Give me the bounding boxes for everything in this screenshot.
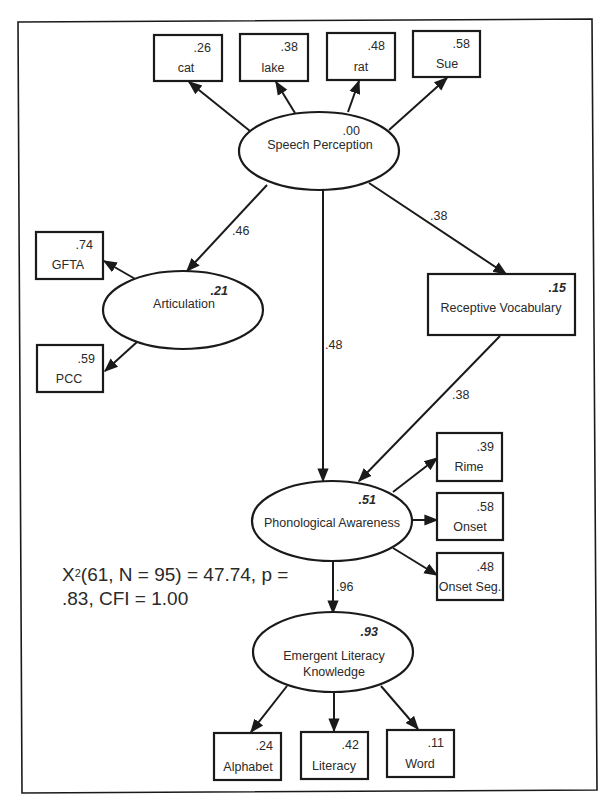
label-onset: Onset <box>453 520 487 534</box>
box-alphabet: .24 Alphabet <box>214 733 281 780</box>
label-articulation: Articulation <box>153 297 215 311</box>
label-emergent-literacy-line2: Knowledge <box>303 665 365 679</box>
fit-statistics: X2(61, N = 95) = 47.74, p = .83, CFI = 1… <box>62 563 292 611</box>
loading-lake: .38 <box>281 40 298 54</box>
label-pcc: PCC <box>56 372 82 386</box>
path-pa-onsetseg <box>393 548 437 575</box>
path-sp-articulation <box>187 185 267 271</box>
coef-vocabulary-phonological: .38 <box>452 388 469 402</box>
r2-speech-perception: .00 <box>343 124 360 138</box>
loading-sue: .58 <box>453 37 470 51</box>
path-sp-rat <box>348 81 359 112</box>
latent-phonological-awareness: .51 Phonological Awareness <box>252 481 412 561</box>
latent-emergent-literacy: .93 Emergent Literacy Knowledge <box>253 612 413 692</box>
latent-speech-perception: .00 Speech Perception <box>239 112 399 190</box>
loading-cat: .26 <box>194 41 211 55</box>
loading-gfta: .74 <box>76 238 93 252</box>
label-speech-perception: Speech Perception <box>267 138 373 152</box>
coef-sp-articulation: .46 <box>232 224 249 238</box>
box-lake: .38 lake <box>240 34 308 81</box>
box-rat: .48 rat <box>327 33 395 80</box>
box-sue: .58 Sue <box>413 31 480 77</box>
loading-word: .11 <box>428 736 444 750</box>
r2-articulation: .21 <box>211 284 228 298</box>
label-literacy: Literacy <box>312 759 357 773</box>
box-onset: .58 Onset <box>437 493 503 540</box>
label-receptive-vocabulary: Receptive Vocabulary <box>441 301 563 315</box>
fit-line-1: X2(61, N = 95) = 47.74, p = <box>62 563 292 587</box>
path-art-gfta <box>104 261 137 280</box>
label-emergent-literacy-line1: Emergent Literacy <box>283 649 385 663</box>
fit-line-2: .83, CFI = 1.00 <box>62 587 292 611</box>
coef-sp-vocabulary: .38 <box>430 209 447 223</box>
path-el-alphabet <box>251 686 287 732</box>
box-rime: .39 Rime <box>437 433 502 481</box>
loading-alphabet: .24 <box>256 739 273 753</box>
box-word: .11 Word <box>387 730 454 777</box>
loading-onset: .58 <box>477 500 494 514</box>
path-sp-vocabulary <box>369 183 506 274</box>
coef-phonological-literacy: .96 <box>336 580 353 594</box>
box-gfta: .74 GFTA <box>36 232 103 279</box>
r2-emergent-literacy: .93 <box>361 625 378 639</box>
box-pcc: .59 PCC <box>37 345 103 392</box>
label-gfta: GFTA <box>52 258 85 272</box>
label-rat: rat <box>354 60 369 74</box>
loading-pcc: .59 <box>78 352 95 366</box>
label-alphabet: Alphabet <box>223 760 273 774</box>
loading-literacy: .42 <box>342 738 359 752</box>
r2-receptive-vocabulary: .15 <box>549 281 567 295</box>
path-el-word <box>381 686 418 729</box>
coef-sp-phonological: .48 <box>325 338 342 352</box>
label-word: Word <box>405 757 435 771</box>
path-art-pcc <box>105 342 137 371</box>
label-onset-seg: Onset Seg. <box>439 580 502 594</box>
path-sp-sue <box>389 78 447 130</box>
r2-phonological-awareness: .51 <box>359 493 376 507</box>
box-cat: .26 cat <box>154 35 222 81</box>
label-cat: cat <box>178 61 195 75</box>
path-sp-lake <box>276 82 295 113</box>
loading-onset-seg: .48 <box>477 560 494 574</box>
latent-articulation: .21 Articulation <box>103 271 263 349</box>
label-phonological-awareness: Phonological Awareness <box>264 516 400 530</box>
box-receptive-vocabulary: .15 Receptive Vocabulary <box>428 274 575 335</box>
label-rime: Rime <box>454 460 483 474</box>
label-lake: lake <box>262 61 285 75</box>
loading-rat: .48 <box>368 39 385 53</box>
sem-diagram: .46 .48 .38 .38 .96 .26 cat .38 lake .48… <box>0 0 613 806</box>
box-onset-seg: .48 Onset Seg. <box>437 553 503 600</box>
path-pa-rime <box>393 458 437 492</box>
loading-rime: .39 <box>477 440 494 454</box>
box-literacy: .42 Literacy <box>301 732 368 779</box>
path-sp-cat <box>189 82 250 131</box>
label-sue: Sue <box>436 57 458 71</box>
